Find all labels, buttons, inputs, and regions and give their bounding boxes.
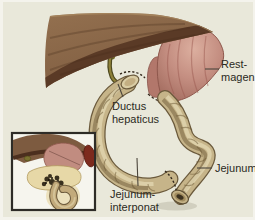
- label-jejunum-interponat: Jejunum- interponat: [110, 188, 159, 213]
- inset-overview-box: [12, 133, 97, 211]
- label-jejunum: Jejunum: [215, 162, 255, 175]
- label-rest-magen: Rest- magen: [221, 58, 255, 83]
- inset-duct: [24, 156, 30, 161]
- label-ductus-hepaticus: Ductus hepaticus: [112, 100, 159, 125]
- medical-illustration: Rest- magen Ductus hepaticus Jejunum Jej…: [0, 0, 255, 220]
